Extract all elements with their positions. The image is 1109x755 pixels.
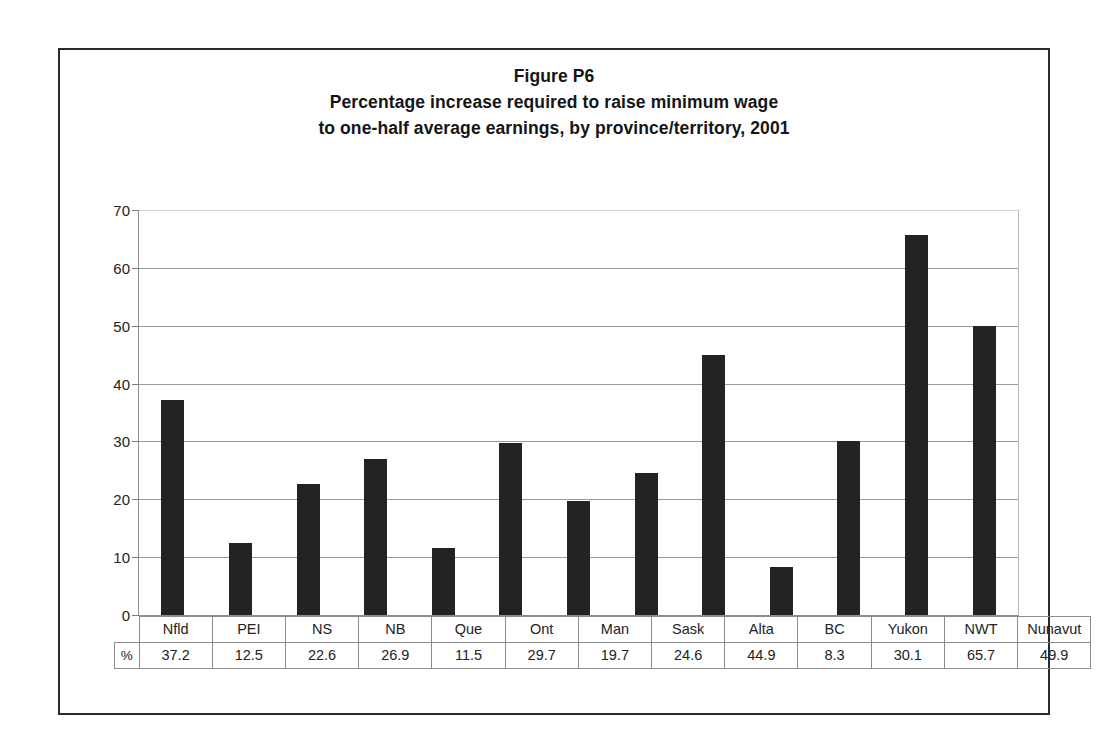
table-cell-value-alta: 44.9 xyxy=(725,643,798,669)
y-tick-mark-40 xyxy=(132,384,139,385)
table-cell-value-nunavut: 49.9 xyxy=(1018,643,1091,669)
bar-bc[interactable] xyxy=(770,567,793,615)
table-cell-value-nwt: 65.7 xyxy=(944,643,1017,669)
table-cell-value-ns: 22.6 xyxy=(285,643,358,669)
plot-area: 010203040506070 xyxy=(138,210,1019,616)
title-line-1: Figure P6 xyxy=(60,63,1048,89)
table-cell-category-sask: Sask xyxy=(652,617,725,643)
y-tick-mark-50 xyxy=(132,326,139,327)
data-table: NfldPEINSNBQueOntManSaskAltaBCYukonNWTNu… xyxy=(114,616,1091,669)
table-cell-value-nfld: 37.2 xyxy=(139,643,212,669)
bar-slot-nunavut xyxy=(950,210,1018,615)
table-cell-value-pei: 12.5 xyxy=(212,643,285,669)
bar-sask[interactable] xyxy=(635,473,658,615)
bar-nb[interactable] xyxy=(364,459,387,615)
bar-que[interactable] xyxy=(432,548,455,615)
table-cell-category-man: Man xyxy=(578,617,651,643)
bar-slot-bc xyxy=(747,210,815,615)
table-cell-category-bc: BC xyxy=(798,617,871,643)
table-cell-category-ont: Ont xyxy=(505,617,578,643)
table-cell-category-ns: NS xyxy=(285,617,358,643)
y-tick-mark-20 xyxy=(132,499,139,500)
unit-cell: % xyxy=(115,643,140,669)
table-cell-category-que: Que xyxy=(432,617,505,643)
table-cell-value-man: 19.7 xyxy=(578,643,651,669)
table-cell-category-nunavut: Nunavut xyxy=(1018,617,1091,643)
table-cell-category-yukon: Yukon xyxy=(871,617,944,643)
page-title: Figure P6 Percentage increase required t… xyxy=(60,63,1048,141)
y-tick-label-60: 60 xyxy=(113,259,130,276)
bar-slot-sask xyxy=(612,210,680,615)
table-row-categories: NfldPEINSNBQueOntManSaskAltaBCYukonNWTNu… xyxy=(115,617,1091,643)
table-cell-category-alta: Alta xyxy=(725,617,798,643)
bar-slot-ont xyxy=(477,210,545,615)
y-tick-label-10: 10 xyxy=(113,549,130,566)
bar-slot-yukon xyxy=(815,210,883,615)
y-tick-label-20: 20 xyxy=(113,491,130,508)
bar-pei[interactable] xyxy=(229,543,252,615)
table-cell-category-nfld: Nfld xyxy=(139,617,212,643)
table-cell-value-ont: 29.7 xyxy=(505,643,578,669)
bar-yukon[interactable] xyxy=(837,441,860,615)
table-cell-value-que: 11.5 xyxy=(432,643,505,669)
bar-slot-pei xyxy=(207,210,275,615)
y-tick-label-30: 30 xyxy=(113,433,130,450)
bar-slot-alta xyxy=(680,210,748,615)
title-line-3: to one-half average earnings, by provinc… xyxy=(60,115,1048,141)
bars-layer xyxy=(139,210,1018,615)
y-tick-mark-30 xyxy=(132,441,139,442)
bar-slot-nb xyxy=(342,210,410,615)
bar-ns[interactable] xyxy=(297,484,320,615)
y-tick-label-70: 70 xyxy=(113,202,130,219)
bar-slot-nfld xyxy=(139,210,207,615)
bar-slot-nwt xyxy=(883,210,951,615)
y-tick-label-50: 50 xyxy=(113,317,130,334)
y-tick-mark-60 xyxy=(132,268,139,269)
table-cell-value-yukon: 30.1 xyxy=(871,643,944,669)
bar-man[interactable] xyxy=(567,501,590,615)
bar-nwt[interactable] xyxy=(905,235,928,615)
bar-slot-ns xyxy=(274,210,342,615)
bar-ont[interactable] xyxy=(499,443,522,615)
bar-alta[interactable] xyxy=(702,355,725,615)
y-tick-label-40: 40 xyxy=(113,375,130,392)
table-cell-category-nwt: NWT xyxy=(944,617,1017,643)
table-cell-value-bc: 8.3 xyxy=(798,643,871,669)
title-line-2: Percentage increase required to raise mi… xyxy=(60,89,1048,115)
bar-nfld[interactable] xyxy=(161,400,184,615)
y-tick-mark-10 xyxy=(132,557,139,558)
y-tick-mark-70 xyxy=(132,210,139,211)
figure-frame: Figure P6 Percentage increase required t… xyxy=(58,48,1050,715)
table-cell-value-sask: 24.6 xyxy=(652,643,725,669)
table-cell-value-nb: 26.9 xyxy=(359,643,432,669)
bar-slot-man xyxy=(545,210,613,615)
bar-slot-que xyxy=(409,210,477,615)
table-corner-blank xyxy=(115,617,140,643)
table-row-values: % 37.212.522.626.911.529.719.724.644.98.… xyxy=(115,643,1091,669)
table-cell-category-pei: PEI xyxy=(212,617,285,643)
table-cell-category-nb: NB xyxy=(359,617,432,643)
bar-nunavut[interactable] xyxy=(973,326,996,615)
